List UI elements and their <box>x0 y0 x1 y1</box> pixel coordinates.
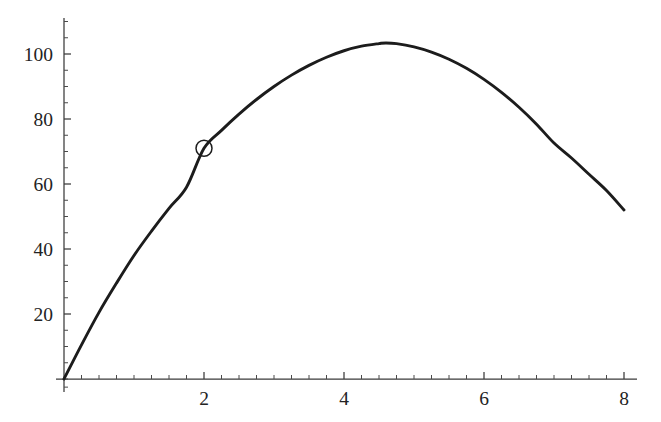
y-tick-label: 60 <box>34 174 54 195</box>
x-tick-label: 6 <box>479 388 489 409</box>
axes-group <box>56 18 637 392</box>
x-axis-tick-labels: 2468 <box>199 388 629 409</box>
x-tick-label: 8 <box>619 388 629 409</box>
y-tick-label: 20 <box>34 304 54 325</box>
y-tick-label: 40 <box>34 239 54 260</box>
function-plot-svg: 2468 20406080100 <box>0 0 661 422</box>
figure-canvas: 2468 20406080100 <box>0 0 661 422</box>
data-curve-line <box>64 43 624 379</box>
y-axis-tick-labels: 20406080100 <box>24 44 53 325</box>
y-axis-major-ticks <box>64 54 71 314</box>
y-tick-label: 100 <box>24 44 53 65</box>
x-tick-label: 2 <box>199 388 209 409</box>
y-tick-label: 80 <box>34 109 54 130</box>
x-tick-label: 4 <box>339 388 349 409</box>
